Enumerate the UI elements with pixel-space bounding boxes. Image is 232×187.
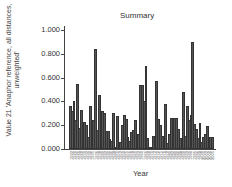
y-axis-label: Value 21 'Anaphor reference, all distanc… (5, 0, 21, 140)
y-tick-label: 0.200 (26, 120, 60, 129)
y-tick-label: 0.000 (26, 144, 60, 153)
bar (145, 66, 148, 149)
y-tick-mark (61, 30, 64, 31)
x-tick-label: 2005 (210, 151, 215, 160)
x-axis (64, 149, 216, 150)
y-tick-mark (61, 125, 64, 126)
y-tick-mark (61, 54, 64, 55)
y-tick-mark (61, 101, 64, 102)
y-tick-label: 0.400 (26, 96, 60, 105)
x-ticks: 1922192419261928193019321934193519361938… (69, 151, 213, 169)
bar (211, 137, 214, 149)
bar (112, 113, 115, 149)
bar (116, 116, 119, 149)
bar (89, 106, 92, 149)
y-tick-label: 1.000 (26, 25, 60, 34)
plot-area (69, 30, 213, 149)
y-axis (64, 26, 65, 150)
y-tick-mark (61, 78, 64, 79)
y-tick-label: 0.800 (26, 49, 60, 58)
chart-title: Summary (120, 11, 154, 20)
y-tick-label: 0.600 (26, 73, 60, 82)
y-tick-mark (61, 149, 64, 150)
x-axis-label: Year (133, 169, 148, 178)
